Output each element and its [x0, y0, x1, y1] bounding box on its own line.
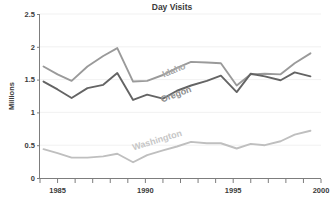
x-tick-label: 1995 — [225, 186, 242, 195]
y-axis-title: Millions — [7, 82, 16, 110]
chart-container: Day Visits 00.511.522.5 1985199019952000… — [0, 0, 331, 211]
x-tick-label: 2000 — [313, 186, 330, 195]
chart-title: Day Visits — [152, 2, 193, 12]
y-tick-label: 2.5 — [25, 10, 35, 19]
y-tick-label: 2 — [31, 43, 35, 52]
day-visits-line-chart: Day Visits 00.511.522.5 1985199019952000… — [0, 0, 331, 211]
y-tick-label: 1 — [31, 108, 35, 117]
x-tick-label: 1990 — [137, 186, 154, 195]
y-tick-label: 0.5 — [25, 141, 35, 150]
chart-background — [0, 0, 331, 211]
y-tick-label: 0 — [31, 174, 35, 183]
y-tick-label: 1.5 — [25, 75, 35, 84]
x-tick-label: 1985 — [49, 186, 66, 195]
